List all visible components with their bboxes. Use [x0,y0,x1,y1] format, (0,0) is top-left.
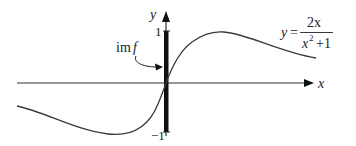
x-axis-arrowhead-icon [304,79,314,87]
function-graph: x y 1 −1 im f y = 2x x 2 +1 [0,0,356,146]
y-tick-label-1: 1 [155,24,162,39]
image-label-f: f [133,40,139,55]
formula-equals: = [290,25,298,40]
image-pointer-arrow [135,56,157,67]
y-axis-arrowhead-icon [162,11,170,22]
y-axis-label: y [148,7,157,22]
formula-numerator: 2x [307,15,321,30]
image-label-im: im [116,40,131,55]
y-tick-label-neg1: −1 [151,128,165,143]
formula-denominator-exponent: 2 [309,33,314,43]
formula-denominator-rest: +1 [316,36,331,51]
formula-denominator-base: x [301,36,309,51]
x-axis-label: x [317,76,325,91]
formula-lhs: y [279,25,288,40]
image-pointer-arrowhead-icon [155,64,163,71]
